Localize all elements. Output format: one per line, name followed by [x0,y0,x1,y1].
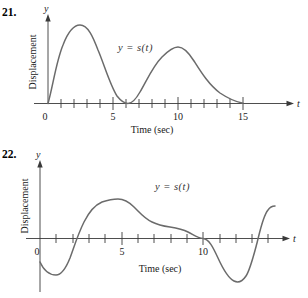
x-tick-label-5-21: 5 [111,111,116,122]
y-axis-variable-22: y [35,149,41,160]
x-tick-label-10-22: 10 [198,246,208,257]
x-tick-label-0-22: 0 [35,246,40,257]
x-axis-title-22: Time (sec) [139,263,182,275]
curve-label-21: y = s(t) [117,42,153,54]
x-axis-title-21: Time (sec) [131,124,174,136]
plot-21: y t 0 5 10 15 Displacement Time (sec) y … [0,0,308,140]
x-tick-label-0-21: 0 [43,111,48,122]
y-axis-arrow-21 [45,14,50,22]
figure-21: 21. y t 0 5 [0,0,308,140]
x-axis-variable-21: t [297,98,300,109]
y-axis-title-22: Displacement [19,178,30,233]
plot-22: y t 0 5 10 Displacement Time (sec) y = s… [0,140,308,298]
x-axis-arrow-21 [287,101,295,106]
x-tick-label-15-21: 15 [238,111,248,122]
curve-label-22: y = s(t) [154,181,190,193]
displacement-curve-21 [48,25,243,104]
y-axis-arrow-22 [37,160,42,168]
y-axis-title-21: Displacement [27,34,38,89]
y-axis-variable-21: y [43,3,49,14]
x-tick-label-10-21: 10 [173,111,183,122]
x-axis-variable-22: t [293,233,296,244]
figure-22: 22. y t 0 5 10 [0,140,308,298]
x-tick-label-5-22: 5 [120,246,125,257]
x-axis-arrow-22 [283,236,291,241]
